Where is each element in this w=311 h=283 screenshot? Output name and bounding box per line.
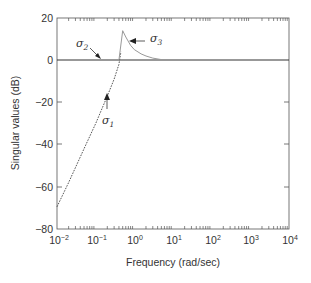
svg-text:0: 0 xyxy=(47,54,53,66)
svg-text:101: 101 xyxy=(166,234,182,246)
svg-text:103: 103 xyxy=(243,234,259,246)
svg-text:σ3: σ3 xyxy=(150,32,163,47)
svg-text:σ2: σ2 xyxy=(76,37,89,52)
svg-text:10−2: 10−2 xyxy=(49,234,69,246)
svg-text:100: 100 xyxy=(127,234,143,246)
singular-value-chart: σ2 σ1 σ3 20 0 −20 −40 −60 −80 10−2 10−1 … xyxy=(0,0,311,283)
svg-text:102: 102 xyxy=(205,234,221,246)
sigma3-curve xyxy=(119,31,173,61)
x-axis-title: Frequency (rad/sec) xyxy=(126,256,220,268)
svg-text:104: 104 xyxy=(282,234,298,246)
svg-text:−40: −40 xyxy=(35,138,53,150)
sigma2-annotation: σ2 xyxy=(76,37,101,59)
svg-text:−60: −60 xyxy=(35,181,53,193)
svg-text:20: 20 xyxy=(41,12,53,24)
svg-text:10−1: 10−1 xyxy=(87,234,107,246)
sigma3-annotation: σ3 xyxy=(129,32,163,47)
y-ticks xyxy=(57,102,289,187)
sigma1-curve xyxy=(57,52,121,207)
svg-text:−20: −20 xyxy=(35,96,53,108)
svg-text:σ1: σ1 xyxy=(102,114,114,129)
sigma1-annotation: σ1 xyxy=(102,93,114,129)
y-axis-title: Singular values (dB) xyxy=(9,76,21,171)
y-tick-labels: 20 0 −20 −40 −60 −80 xyxy=(35,12,53,235)
x-tick-labels: 10−2 10−1 100 101 102 103 104 xyxy=(49,234,298,246)
